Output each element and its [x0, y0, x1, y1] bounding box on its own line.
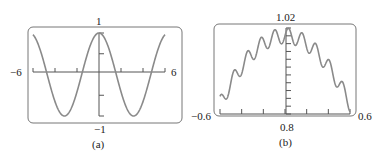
panel-a: [28, 27, 182, 123]
panel-b: [214, 24, 356, 116]
a-caption: (a): [92, 139, 104, 150]
b-caption: (b): [279, 137, 292, 148]
a-top-label: 1: [96, 16, 102, 27]
b-right-label: 0.6: [358, 111, 372, 122]
b-left-label: −0.6: [191, 111, 211, 122]
ticks-b: [220, 28, 350, 114]
b-bottom-label: 0.8: [280, 122, 294, 133]
a-left-label: −6: [10, 67, 22, 78]
frame-a: [28, 27, 182, 123]
curve-b: [220, 28, 350, 112]
plots-canvas: [0, 0, 383, 158]
a-right-label: 6: [171, 67, 177, 78]
a-bottom-label: −1: [94, 124, 106, 135]
b-top-label: 1.02: [276, 12, 295, 23]
